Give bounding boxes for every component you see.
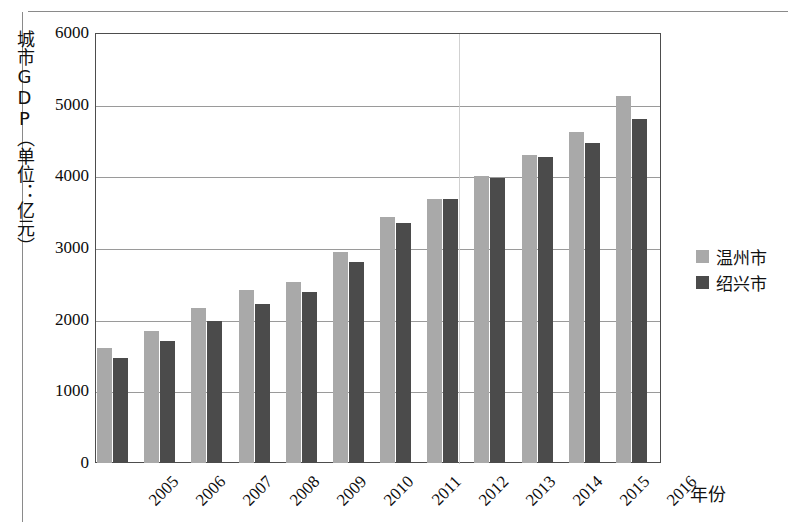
bar-group xyxy=(95,33,142,463)
y-tick-label: 5000 xyxy=(31,95,89,115)
bar xyxy=(207,321,222,463)
bar xyxy=(97,348,112,463)
bar xyxy=(427,199,442,463)
x-tick-label: 2011 xyxy=(427,472,465,510)
x-tick-label: 2009 xyxy=(333,472,371,510)
bar-group xyxy=(189,33,236,463)
bar xyxy=(474,176,489,463)
legend-label: 温州市 xyxy=(716,244,767,269)
bar xyxy=(522,155,537,463)
y-tick-label: 3000 xyxy=(31,238,89,258)
bar xyxy=(191,308,206,463)
bar xyxy=(632,119,647,463)
chart-legend: 温州市绍兴市 xyxy=(696,243,788,295)
x-tick-label: 2012 xyxy=(475,472,513,510)
bar-chart-figure: 城市GDP（单位：亿元） 0100020003000400050006000 2… xyxy=(0,0,791,526)
y-tick-label: 4000 xyxy=(31,166,89,186)
bar xyxy=(443,199,458,463)
bar xyxy=(113,358,128,463)
legend-item: 温州市 xyxy=(696,243,788,269)
bar-series-container xyxy=(95,33,661,463)
bar-group xyxy=(567,33,614,463)
bar xyxy=(538,157,553,463)
x-axis-tick-labels: 2005200620072008200920102011201220132014… xyxy=(95,466,661,524)
x-tick-label: 2015 xyxy=(616,472,654,510)
bar-group xyxy=(284,33,331,463)
bar-group xyxy=(614,33,661,463)
bar xyxy=(302,292,317,463)
bar-group xyxy=(520,33,567,463)
bar xyxy=(160,341,175,463)
bar-group xyxy=(378,33,425,463)
y-tick-label: 1000 xyxy=(31,381,89,401)
y-tick-label: 0 xyxy=(31,453,89,473)
bar xyxy=(255,304,270,463)
y-tick-label: 6000 xyxy=(31,23,89,43)
bar xyxy=(333,252,348,463)
bar xyxy=(569,132,584,463)
x-tick-label: 2014 xyxy=(569,472,607,510)
bar-group xyxy=(331,33,378,463)
bar xyxy=(349,262,364,463)
bar xyxy=(396,223,411,463)
y-axis-tick-labels: 0100020003000400050006000 xyxy=(25,33,89,463)
legend-swatch-icon xyxy=(696,250,709,263)
x-tick-label: 2007 xyxy=(239,472,277,510)
bar-group xyxy=(425,33,472,463)
y-tick-label: 2000 xyxy=(31,310,89,330)
x-tick-label: 2010 xyxy=(380,472,418,510)
x-tick-label: 2006 xyxy=(192,472,230,510)
legend-item: 绍兴市 xyxy=(696,269,788,295)
x-axis-title: 年份 xyxy=(690,480,726,506)
legend-label: 绍兴市 xyxy=(716,270,767,295)
bar xyxy=(380,217,395,463)
legend-swatch-icon xyxy=(696,276,709,289)
x-tick-label: 2013 xyxy=(522,472,560,510)
bar xyxy=(286,282,301,463)
bar xyxy=(144,331,159,463)
bar-group xyxy=(472,33,519,463)
bar xyxy=(585,143,600,463)
bar-group xyxy=(142,33,189,463)
x-tick-label: 2008 xyxy=(286,472,324,510)
bar xyxy=(490,178,505,463)
x-tick-label: 2005 xyxy=(145,472,183,510)
bar xyxy=(616,96,631,463)
bar xyxy=(239,290,254,463)
bar-group xyxy=(237,33,284,463)
